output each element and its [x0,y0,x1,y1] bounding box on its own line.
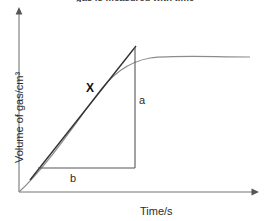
y-axis-label: Volume of gas/cm³ [14,53,25,183]
y-axis-arrow-icon [16,7,23,15]
tangent-point-x-label: X [86,82,94,94]
triangle-leg-a-label: a [139,95,145,106]
x-axis-arrow-icon [252,189,260,196]
gas-volume-chart-figure: gas is measured with time Volume of gas/… [0,0,270,221]
tangent-line [30,46,136,180]
chart-plot-area [0,0,270,221]
triangle-leg-b-label: b [70,173,76,184]
x-axis-label: Time/s [140,206,173,217]
